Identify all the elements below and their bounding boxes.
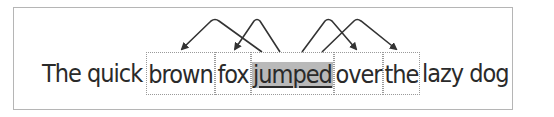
word-fox: fox [215,52,251,95]
word-the-quick: The quick [42,52,146,95]
word-lazy-dog: lazy dog [422,52,512,95]
word-brown: brown [146,52,215,95]
arrow-jumped-to-fox [235,20,280,53]
sentence: The quick brown fox jumped over the lazy… [0,52,554,95]
word-over: over [334,52,383,95]
arrow-jumped-to-over [302,20,356,53]
arrow-jumped-to-brown [182,20,262,53]
word-jumped-focus: jumped [251,52,334,95]
arrow-jumped-to-the [322,20,396,53]
highlighted-word: jumped [252,62,333,88]
word-the: the [383,52,420,95]
